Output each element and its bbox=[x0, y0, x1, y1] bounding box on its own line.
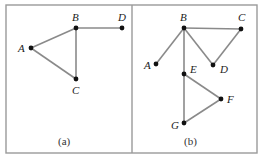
label-a-D: D bbox=[117, 11, 126, 23]
panel-b-nodes bbox=[154, 26, 244, 126]
node-b-D bbox=[211, 63, 216, 68]
caption-a: (a) bbox=[58, 135, 71, 148]
edge-b-EF bbox=[184, 74, 221, 99]
graph-figure: A B C D (a) A B C D E F G (b) bbox=[0, 0, 263, 165]
label-a-C: C bbox=[72, 84, 80, 96]
label-b-E: E bbox=[189, 63, 197, 75]
edge-b-BC bbox=[184, 28, 241, 29]
edge-b-BA bbox=[156, 28, 184, 64]
panel-a-edges bbox=[31, 28, 122, 79]
label-a-A: A bbox=[17, 42, 25, 54]
node-b-B bbox=[182, 26, 187, 31]
node-b-G bbox=[182, 121, 187, 126]
label-b-D: D bbox=[219, 63, 228, 75]
label-b-G: G bbox=[171, 119, 179, 131]
label-a-B: B bbox=[72, 11, 79, 23]
label-b-C: C bbox=[238, 11, 246, 23]
caption-b: (b) bbox=[184, 135, 197, 148]
edge-b-DC bbox=[213, 29, 241, 65]
edge-a-AC bbox=[31, 48, 76, 79]
label-b-A: A bbox=[143, 59, 151, 71]
node-a-D bbox=[120, 26, 125, 31]
edge-b-FG bbox=[184, 99, 221, 123]
node-a-B bbox=[74, 26, 79, 31]
panel-b-edges bbox=[156, 28, 241, 123]
node-b-C bbox=[239, 27, 244, 32]
edge-b-BD bbox=[184, 28, 213, 65]
node-b-E bbox=[182, 72, 187, 77]
node-b-A bbox=[154, 62, 159, 67]
node-a-A bbox=[29, 46, 34, 51]
label-b-B: B bbox=[180, 11, 187, 23]
edge-a-AB bbox=[31, 28, 76, 48]
node-a-C bbox=[74, 77, 79, 82]
node-b-F bbox=[219, 97, 224, 102]
label-b-F: F bbox=[226, 93, 234, 105]
